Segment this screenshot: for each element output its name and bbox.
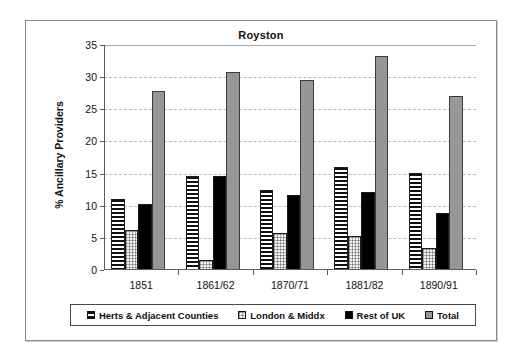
x-axis-tick-mark	[178, 270, 179, 275]
x-axis-tick-mark	[402, 270, 403, 275]
bar	[260, 190, 274, 270]
legend-item[interactable]: Rest of UK	[345, 310, 406, 321]
y-axis-tick-label: 35	[85, 39, 97, 51]
y-axis-tick-label: 0	[91, 264, 97, 276]
bar	[334, 167, 348, 271]
x-axis-label: 1881/82	[327, 279, 401, 291]
x-axis-label: 1890/91	[402, 279, 476, 291]
y-axis-title: % Ancillary Providers	[53, 70, 65, 240]
bar	[422, 248, 436, 270]
y-axis-tick-mark	[100, 270, 104, 271]
y-axis-tick-label: 30	[85, 71, 97, 83]
bar	[375, 56, 389, 270]
bar	[436, 213, 450, 270]
x-axis-line	[104, 269, 476, 270]
x-axis-label: 1851	[104, 279, 178, 291]
bar-group	[104, 45, 178, 270]
chart-legend: Herts & Adjacent CountiesLondon & MiddxR…	[70, 304, 476, 326]
legend-item[interactable]: Total	[425, 310, 459, 321]
x-axis-label: 1861/62	[178, 279, 252, 291]
chart-figure: Royston % Ancillary Providers 0510152025…	[25, 20, 497, 341]
legend-item[interactable]: Herts & Adjacent Counties	[87, 310, 218, 321]
x-axis-label: 1870/71	[253, 279, 327, 291]
y-axis-tick-label: 25	[85, 103, 97, 115]
legend-swatch-icon	[425, 311, 433, 319]
bar	[186, 176, 200, 271]
bar	[287, 195, 301, 270]
x-axis-tick-mark	[253, 270, 254, 275]
y-axis-tick-label: 20	[85, 135, 97, 147]
legend-swatch-icon	[238, 311, 246, 319]
bar	[409, 173, 423, 270]
bar	[138, 204, 152, 270]
legend-label: Herts & Adjacent Counties	[99, 310, 218, 321]
y-axis-tick-label: 10	[85, 200, 97, 212]
bar-group	[402, 45, 476, 270]
bar	[273, 233, 287, 270]
bar-group	[178, 45, 252, 270]
bar	[449, 96, 463, 270]
bar	[213, 176, 227, 271]
bar	[361, 192, 375, 270]
legend-item[interactable]: London & Middx	[238, 310, 324, 321]
y-axis-tick-label: 5	[91, 232, 97, 244]
x-axis-tick-mark	[327, 270, 328, 275]
bar	[125, 230, 139, 270]
y-axis-tick-label: 15	[85, 168, 97, 180]
bar	[348, 236, 362, 270]
bar-group	[253, 45, 327, 270]
bar	[152, 91, 166, 270]
bar	[226, 72, 240, 270]
bar	[111, 199, 125, 270]
bar-group	[327, 45, 401, 270]
legend-label: Total	[437, 310, 459, 321]
plot-area: 05101520253035	[104, 45, 476, 270]
y-axis-line	[104, 45, 105, 270]
legend-swatch-icon	[345, 311, 353, 319]
legend-label: Rest of UK	[357, 310, 406, 321]
legend-swatch-icon	[87, 311, 95, 319]
x-axis-tick-mark	[476, 270, 477, 275]
bar	[300, 80, 314, 270]
legend-label: London & Middx	[250, 310, 324, 321]
